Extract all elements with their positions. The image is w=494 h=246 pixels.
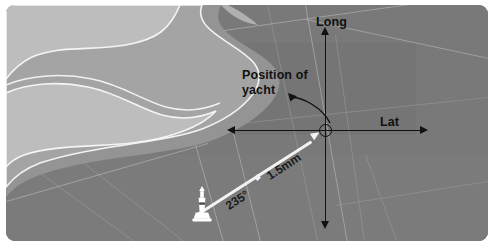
nautical-chart-canvas: 235° 1.5mm Long Lat Position of yacht <box>6 5 488 241</box>
longitude-axis-label: Long <box>316 15 347 31</box>
lighthouse-icon <box>189 186 215 222</box>
position-callout-leader <box>288 93 338 133</box>
latitude-axis-arrow-left <box>227 126 235 134</box>
position-callout-line1: Position of <box>242 68 308 84</box>
latitude-axis-arrow-right <box>420 126 428 134</box>
latitude-axis-label: Lat <box>380 115 399 131</box>
position-callout-line2: yacht <box>242 83 275 99</box>
longitude-axis-arrow-down <box>321 221 329 229</box>
screenshot-root: 235° 1.5mm Long Lat Position of yacht <box>0 0 494 246</box>
land-contour-layer <box>6 5 488 241</box>
